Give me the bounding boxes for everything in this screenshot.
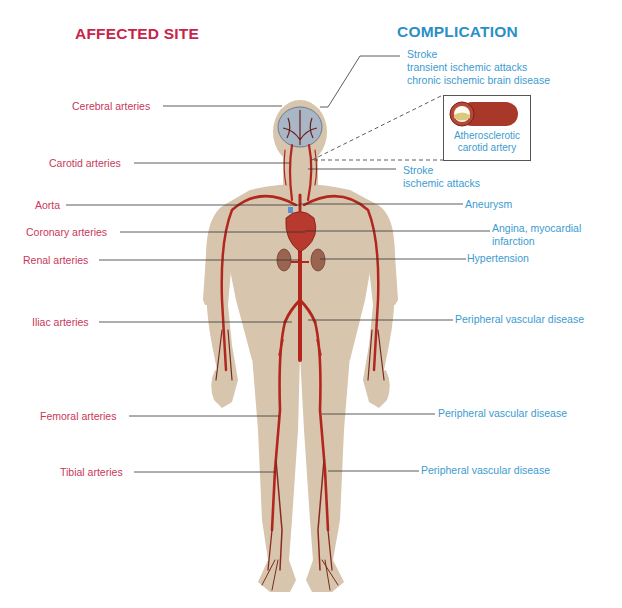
label-aorta: Aorta <box>35 199 60 211</box>
complication-coronary: Angina, myocardial infarction <box>492 222 581 248</box>
complication-renal: Hypertension <box>467 252 529 265</box>
human-body-artery-diagram <box>0 0 622 608</box>
label-carotid-arteries: Carotid arteries <box>49 157 121 169</box>
brain-illustration <box>278 107 322 147</box>
complication-cerebral: Stroke transient ischemic attacks chroni… <box>407 48 550 87</box>
artery-cross-section-icon <box>444 96 530 130</box>
complication-iliac: Peripheral vascular disease <box>455 313 584 326</box>
complication-femoral: Peripheral vascular disease <box>438 407 567 420</box>
label-coronary-arteries: Coronary arteries <box>26 226 107 238</box>
inset-label: Atherosclerotic carotid artery <box>448 130 526 154</box>
label-femoral-arteries: Femoral arteries <box>40 410 116 422</box>
atherosclerotic-artery-inset: Atherosclerotic carotid artery <box>443 95 531 161</box>
label-iliac-arteries: Iliac arteries <box>32 316 89 328</box>
label-tibial-arteries: Tibial arteries <box>60 466 123 478</box>
label-renal-arteries: Renal arteries <box>23 254 88 266</box>
inset-callout-lines <box>312 95 443 160</box>
label-cerebral-arteries: Cerebral arteries <box>72 100 150 112</box>
complication-tibial: Peripheral vascular disease <box>421 464 550 477</box>
complication-aorta: Aneurysm <box>465 198 512 211</box>
complication-carotid: Stroke ischemic attacks <box>403 164 480 190</box>
